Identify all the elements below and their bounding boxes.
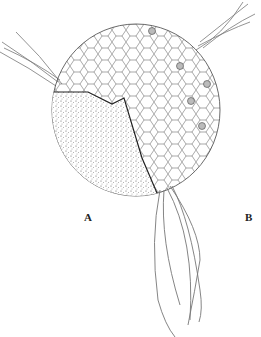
flagella-upper-left: [0, 32, 62, 86]
flagella-bottom: [154, 186, 201, 337]
flagella-upper-right: [196, 2, 255, 50]
panel-label-a: A: [84, 211, 92, 223]
panel-label-b: B: [245, 211, 252, 223]
cell-illustration: [0, 0, 261, 337]
